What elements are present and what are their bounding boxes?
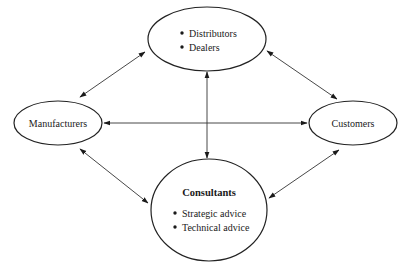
bullet-text-strategic-advice: Strategic advice — [182, 208, 247, 219]
bullet-text-dealers: Dealers — [189, 42, 220, 53]
bullet-icon — [180, 31, 183, 34]
edge-manufacturers-distributors — [80, 52, 145, 97]
node-consultants: Consultants Strategic advice Technical a… — [151, 159, 267, 261]
node-customers: Customers — [309, 101, 397, 145]
bullet-text-distributors: Distributors — [189, 28, 237, 39]
bullet-icon — [173, 211, 176, 214]
bullet-icon — [180, 45, 183, 48]
edge-distributors-customers — [267, 51, 337, 99]
node-label-customers: Customers — [332, 118, 375, 129]
bullet-icon — [173, 225, 176, 228]
node-distributors-dealers: Distributors Dealers — [148, 7, 266, 71]
node-manufacturers: Manufacturers — [14, 101, 102, 145]
relationship-diagram: Distributors Dealers Manufacturers Custo… — [0, 0, 412, 263]
node-label-manufacturers: Manufacturers — [29, 118, 87, 129]
edge-consultants-customers — [269, 150, 339, 198]
node-ellipse — [148, 7, 266, 71]
bullet-text-technical-advice: Technical advice — [182, 222, 250, 233]
node-title-consultants: Consultants — [182, 187, 236, 198]
edge-manufacturers-consultants — [80, 149, 148, 203]
